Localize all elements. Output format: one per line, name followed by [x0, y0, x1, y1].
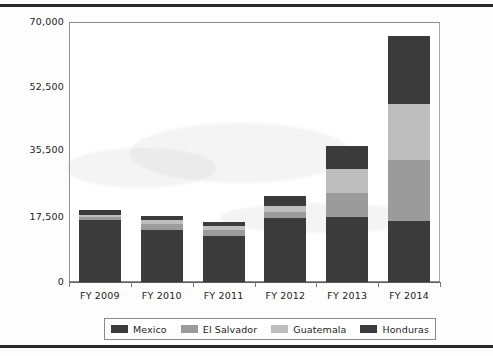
legend-label: Guatemala	[293, 324, 346, 335]
bar-segment-honduras[interactable]	[203, 222, 245, 226]
y-axis: 70,00052,50035,50017,5000	[6, 10, 64, 340]
bar-segment-el-salvador[interactable]	[326, 193, 368, 217]
bar-segment-honduras[interactable]	[326, 146, 368, 169]
bar-segment-el-salvador[interactable]	[141, 224, 183, 230]
y-axis-tick-label: 17,500	[6, 212, 64, 222]
bar-segment-el-salvador[interactable]	[388, 160, 430, 221]
x-axis-tick-label: FY 2014	[378, 290, 440, 301]
bar-segment-honduras[interactable]	[79, 210, 121, 215]
chart-page: 70,00052,50035,50017,5000 FY 2009FY 2010…	[0, 0, 493, 356]
bar-segment-guatemala[interactable]	[264, 206, 306, 212]
legend-label: El Salvador	[203, 324, 257, 335]
legend-swatch	[360, 325, 377, 333]
chart-legend: MexicoEl SalvadorGuatemalaHonduras	[104, 318, 436, 340]
x-axis-tick-mark	[440, 282, 441, 287]
bar-group[interactable]	[141, 216, 183, 282]
y-axis-tick-label: 35,500	[6, 145, 64, 155]
x-axis-tick-mark	[316, 282, 317, 287]
x-axis-tick-mark	[255, 282, 256, 287]
legend-item-mexico[interactable]: Mexico	[111, 324, 167, 335]
bar-segment-mexico[interactable]	[264, 218, 306, 282]
bar-group[interactable]	[388, 36, 430, 282]
x-axis-tick-label: FY 2011	[193, 290, 255, 301]
bar-segment-guatemala[interactable]	[203, 226, 245, 230]
bar-segment-mexico[interactable]	[79, 220, 121, 282]
x-axis-tick-mark	[193, 282, 194, 287]
bar-segment-guatemala[interactable]	[141, 220, 183, 224]
bar-group[interactable]	[203, 222, 245, 282]
x-axis-tick-label: FY 2013	[316, 290, 378, 301]
x-axis-tick-mark	[69, 282, 70, 287]
top-divider-rule	[0, 4, 493, 7]
bottom-divider-rule	[0, 345, 493, 348]
bar-group[interactable]	[264, 196, 306, 282]
bar-segment-mexico[interactable]	[203, 236, 245, 282]
bar-segment-el-salvador[interactable]	[264, 212, 306, 218]
x-axis-tick-mark	[378, 282, 379, 287]
x-axis-tick-label: FY 2012	[255, 290, 317, 301]
bar-segment-mexico[interactable]	[141, 230, 183, 282]
legend-swatch	[271, 325, 288, 333]
legend-label: Mexico	[133, 324, 167, 335]
legend-swatch	[181, 325, 198, 333]
x-axis-tick-mark	[131, 282, 132, 287]
legend-label: Honduras	[382, 324, 429, 335]
bar-segment-honduras[interactable]	[264, 196, 306, 206]
x-axis-tick-label: FY 2010	[131, 290, 193, 301]
bar-segment-guatemala[interactable]	[79, 215, 121, 218]
bar-segment-honduras[interactable]	[388, 36, 430, 104]
bar-segment-guatemala[interactable]	[326, 169, 368, 193]
y-axis-tick-label: 52,500	[6, 82, 64, 92]
legend-item-guatemala[interactable]: Guatemala	[271, 324, 346, 335]
bar-segment-guatemala[interactable]	[388, 104, 430, 160]
bar-segment-mexico[interactable]	[388, 221, 430, 282]
legend-swatch	[111, 325, 128, 333]
bar-segment-el-salvador[interactable]	[79, 217, 121, 220]
bar-group[interactable]	[79, 210, 121, 282]
chart-figure: 70,00052,50035,50017,5000 FY 2009FY 2010…	[0, 10, 493, 340]
y-axis-tick-label: 0	[6, 277, 64, 287]
legend-item-el-salvador[interactable]: El Salvador	[181, 324, 257, 335]
y-axis-tick-label: 70,000	[6, 17, 64, 27]
bar-series-container	[69, 22, 440, 282]
bar-segment-mexico[interactable]	[326, 217, 368, 282]
bar-group[interactable]	[326, 146, 368, 282]
bar-segment-honduras[interactable]	[141, 216, 183, 220]
legend-item-honduras[interactable]: Honduras	[360, 324, 429, 335]
x-axis-tick-label: FY 2009	[69, 290, 131, 301]
bar-segment-el-salvador[interactable]	[203, 230, 245, 236]
